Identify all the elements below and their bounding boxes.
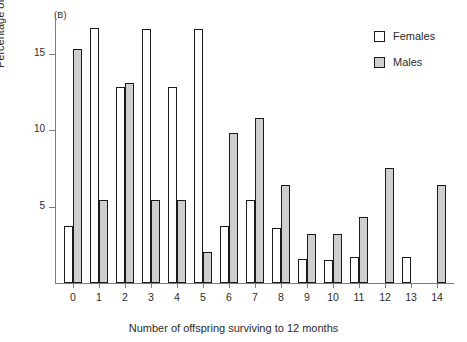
- y-tick-15: 15: [49, 54, 55, 55]
- x-tick-label-14: 14: [431, 291, 443, 303]
- bar-males-1: [99, 200, 108, 283]
- bar-males-2: [125, 83, 134, 283]
- x-tick-2: [125, 283, 126, 288]
- y-axis-title: Percentage of breeders: [0, 0, 6, 68]
- x-tick-4: [177, 283, 178, 288]
- bar-males-4: [177, 200, 186, 283]
- x-axis-title: Number of offspring surviving to 12 mont…: [0, 322, 467, 334]
- y-tick-label-15: 15: [34, 47, 45, 58]
- x-tick-5: [203, 283, 204, 288]
- bar-males-5: [203, 252, 212, 283]
- y-tick-label-10: 10: [34, 123, 45, 134]
- x-tick-label-3: 3: [148, 291, 154, 303]
- y-tick-10: 10: [49, 130, 55, 131]
- x-tick-0: [73, 283, 74, 288]
- bar-males-9: [307, 234, 316, 283]
- bar-females-9: [298, 259, 307, 283]
- legend: FemalesMales: [374, 30, 435, 82]
- bar-females-2: [116, 87, 125, 283]
- x-tick-8: [281, 283, 282, 288]
- x-tick-7: [255, 283, 256, 288]
- bar-males-8: [281, 185, 290, 283]
- x-tick-13: [411, 283, 412, 288]
- x-tick-label-13: 13: [405, 291, 417, 303]
- x-tick-label-0: 0: [70, 291, 76, 303]
- y-axis-line: [55, 14, 56, 283]
- x-tick-9: [307, 283, 308, 288]
- bar-females-13: [402, 257, 411, 283]
- bar-males-12: [385, 168, 394, 283]
- x-tick-label-8: 8: [278, 291, 284, 303]
- bar-females-6: [220, 226, 229, 283]
- bar-males-6: [229, 133, 238, 283]
- x-tick-label-4: 4: [174, 291, 180, 303]
- x-tick-label-5: 5: [200, 291, 206, 303]
- x-tick-label-12: 12: [379, 291, 391, 303]
- bar-females-1: [90, 28, 99, 283]
- bar-males-11: [359, 217, 368, 283]
- figure-panel-b: (B) 51015 01234567891011121314 Percentag…: [0, 0, 467, 342]
- x-tick-label-9: 9: [304, 291, 310, 303]
- x-tick-3: [151, 283, 152, 288]
- x-tick-1: [99, 283, 100, 288]
- x-tick-label-7: 7: [252, 291, 258, 303]
- bar-females-5: [194, 29, 203, 283]
- x-tick-11: [359, 283, 360, 288]
- legend-swatch-male: [374, 57, 385, 68]
- bar-males-3: [151, 200, 160, 283]
- x-tick-label-11: 11: [354, 291, 365, 303]
- bar-males-10: [333, 234, 342, 283]
- x-tick-10: [333, 283, 334, 288]
- bar-females-8: [272, 228, 281, 283]
- legend-label-females: Females: [393, 30, 435, 42]
- legend-label-males: Males: [393, 56, 422, 68]
- x-tick-label-10: 10: [327, 291, 339, 303]
- legend-item-males: Males: [374, 56, 435, 68]
- bar-females-10: [324, 260, 333, 283]
- x-tick-12: [385, 283, 386, 288]
- bar-females-11: [350, 257, 359, 283]
- bar-females-7: [246, 200, 255, 283]
- bar-males-14: [437, 185, 446, 283]
- bar-females-4: [168, 87, 177, 283]
- legend-swatch-female: [374, 31, 385, 42]
- bar-females-3: [142, 29, 151, 283]
- x-tick-label-6: 6: [226, 291, 232, 303]
- x-tick-6: [229, 283, 230, 288]
- bar-males-0: [73, 49, 82, 283]
- y-tick-label-5: 5: [39, 200, 45, 211]
- bar-males-7: [255, 118, 264, 283]
- bar-females-0: [64, 226, 73, 283]
- x-tick-label-1: 1: [96, 291, 102, 303]
- x-tick-14: [437, 283, 438, 288]
- x-tick-label-2: 2: [122, 291, 128, 303]
- legend-item-females: Females: [374, 30, 435, 42]
- y-tick-5: 5: [49, 207, 55, 208]
